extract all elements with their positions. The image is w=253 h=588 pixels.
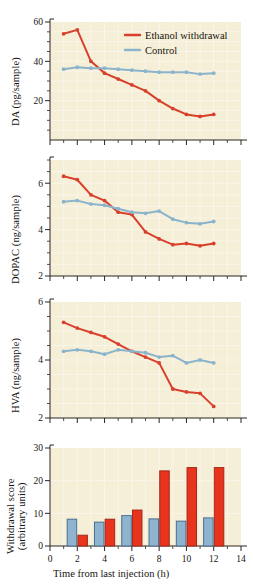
y-ticks: 204060 (34, 17, 51, 130)
data-point (185, 70, 189, 74)
data-point (89, 66, 93, 70)
figure-ethanol-withdrawal-monoamines: 204060Ethanol withdrawalControl DA (pg/s… (0, 0, 253, 588)
y-tick-label: 40 (34, 57, 44, 67)
data-point (75, 348, 79, 352)
data-point (144, 211, 148, 215)
data-point (116, 77, 120, 81)
data-point (62, 320, 66, 324)
data-point (89, 193, 93, 197)
data-point (157, 361, 161, 365)
data-point (157, 209, 161, 213)
dopac-plot-svg: 246 (0, 148, 253, 290)
data-point (116, 207, 120, 211)
chart-panel-dopac: 246 DOPAC (ng/sample) (0, 148, 253, 290)
x-tick-label: 6 (129, 554, 134, 564)
data-point (171, 243, 175, 247)
data-point (75, 65, 79, 69)
bar-control (94, 522, 104, 546)
x-ticks (50, 418, 241, 423)
x-tick-labels: 02468101214 (48, 554, 246, 564)
x-axis-label: Time from last injection (h) (53, 568, 169, 579)
data-point (103, 66, 107, 70)
data-point (171, 217, 175, 221)
data-point (116, 348, 120, 352)
y-axis-label-line2: (arbitrary units) (17, 478, 28, 554)
y-tick-label: 10 (34, 509, 44, 519)
y-axis-label-hva: HVA (ng/sample) (10, 338, 21, 413)
y-tick-label: 6 (38, 297, 43, 307)
bar-ethanol-withdrawal (105, 519, 115, 546)
data-point (171, 387, 175, 391)
y-axis-label-da: DA (pg/sample) (10, 57, 21, 126)
y-tick-label: 30 (34, 443, 44, 453)
data-point (185, 390, 189, 394)
data-point (212, 113, 216, 117)
withdrawal-score-plot-svg: 010203002468101214 (0, 432, 253, 588)
data-point (185, 242, 189, 246)
data-point (75, 199, 79, 203)
data-point (157, 237, 161, 241)
data-point (144, 355, 148, 359)
bar-ethanol-withdrawal (132, 510, 142, 546)
data-point (171, 70, 175, 74)
chart-panel-hva: 246 HVA (ng/sample) (0, 290, 253, 432)
data-point (185, 361, 189, 365)
data-point (212, 242, 216, 246)
data-point (116, 67, 120, 71)
data-point (157, 70, 161, 74)
data-point (157, 355, 161, 359)
data-point (116, 342, 120, 346)
data-point (130, 68, 134, 72)
bar-ethanol-withdrawal (214, 468, 224, 546)
x-tick-label: 4 (102, 554, 107, 564)
y-tick-label: 20 (34, 476, 44, 486)
data-point (75, 178, 79, 182)
bar-control (149, 519, 159, 546)
data-point (103, 199, 107, 203)
y-tick-label: 6 (38, 179, 43, 189)
bar-control (67, 519, 77, 546)
data-point (89, 202, 93, 206)
y-tick-label: 2 (38, 271, 43, 281)
x-ticks (50, 546, 241, 551)
data-point (144, 69, 148, 73)
x-tick-label: 12 (209, 554, 219, 564)
data-point (198, 222, 202, 226)
data-point (89, 59, 93, 63)
x-ticks (50, 140, 241, 145)
data-point (89, 349, 93, 353)
data-point (212, 405, 216, 409)
chart-panel-da: 204060Ethanol withdrawalControl DA (pg/s… (0, 0, 253, 148)
data-point (157, 99, 161, 103)
data-point (198, 115, 202, 119)
da-plot-svg: 204060Ethanol withdrawalControl (0, 0, 253, 148)
y-tick-label: 2 (38, 413, 43, 423)
y-tick-label: 4 (38, 355, 43, 365)
x-ticks (50, 276, 241, 281)
data-point (171, 354, 175, 358)
y-ticks: 0102030 (34, 443, 51, 551)
y-tick-label: 20 (34, 96, 44, 106)
y-ticks: 246 (38, 297, 50, 423)
bar-ethanol-withdrawal (78, 535, 88, 546)
data-point (103, 352, 107, 356)
data-point (144, 230, 148, 234)
data-point (212, 220, 216, 224)
bar-control (204, 518, 214, 546)
data-point (144, 351, 148, 355)
data-point (212, 361, 216, 365)
x-tick-label: 2 (75, 554, 80, 564)
data-point (62, 349, 66, 353)
bar-ethanol-withdrawal (187, 468, 197, 546)
y-axis-label-line1: Withdrawal score (6, 478, 17, 554)
data-point (198, 391, 202, 395)
data-point (212, 71, 216, 75)
x-tick-label: 14 (236, 554, 246, 564)
data-point (75, 28, 79, 32)
data-point (116, 210, 120, 214)
data-point (62, 67, 66, 71)
data-point (103, 71, 107, 75)
bar-control (176, 521, 186, 546)
data-point (144, 89, 148, 93)
hva-plot-svg: 246 (0, 290, 253, 432)
